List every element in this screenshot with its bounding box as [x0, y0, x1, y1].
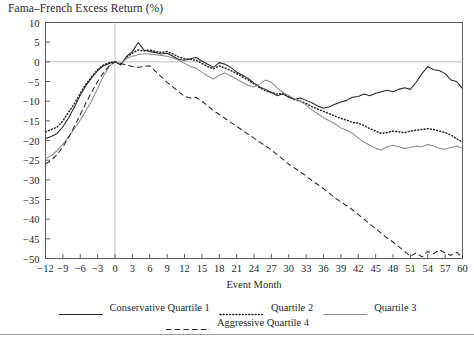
legend-label: Quartile 3	[374, 302, 416, 313]
legend-line-icon	[219, 304, 265, 312]
legend-swatch-solid	[58, 310, 104, 318]
legend-item[interactable]: Quartile 2	[219, 302, 313, 313]
legend-row: Conservative Quartile 1Quartile 2Quartil…	[0, 300, 474, 315]
legend-line-icon	[165, 319, 211, 327]
chart-root: Fama–French Excess Return (%) 1050−5−10−…	[0, 0, 474, 338]
legend-item[interactable]: Conservative Quartile 1	[58, 302, 210, 313]
legend-label: Conservative Quartile 1	[110, 302, 210, 313]
y-tick-label: −40	[12, 214, 40, 225]
y-tick-label: 5	[12, 37, 40, 48]
legend-label: Quartile 2	[271, 302, 313, 313]
footer-divider	[0, 334, 474, 335]
x-tick-label: 60	[451, 263, 474, 274]
legend-item[interactable]: Aggressive Quartile 4	[165, 317, 309, 328]
y-tick-label: −45	[12, 233, 40, 244]
legend-item[interactable]: Quartile 3	[322, 302, 416, 313]
chart-legend: Conservative Quartile 1Quartile 2Quartil…	[0, 300, 474, 330]
x-axis-title: Event Month	[174, 279, 334, 290]
legend-swatch-solid	[322, 310, 368, 318]
y-tick-label: −10	[12, 96, 40, 107]
legend-swatch-dashed	[165, 325, 211, 333]
y-tick-label: −20	[12, 135, 40, 146]
y-tick-label: 10	[12, 17, 40, 28]
y-tick-label: −5	[12, 76, 40, 87]
legend-label: Aggressive Quartile 4	[217, 317, 309, 328]
y-tick-label: −25	[12, 155, 40, 166]
y-tick-label: −15	[12, 115, 40, 126]
y-tick-label: −35	[12, 194, 40, 205]
y-tick-label: −30	[12, 174, 40, 185]
legend-line-icon	[58, 304, 104, 312]
legend-line-icon	[322, 304, 368, 312]
y-tick-label: 0	[12, 56, 40, 67]
plot-frame	[46, 23, 463, 259]
